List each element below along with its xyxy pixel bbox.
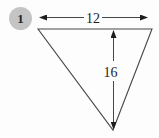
height-dimension-label: 16 [104, 65, 118, 80]
triangle-shape [38, 29, 152, 130]
geometry-figure: 1 12 16 [0, 0, 159, 138]
width-dimension-label: 12 [86, 11, 100, 26]
triangle-diagram: 12 16 [0, 0, 159, 138]
